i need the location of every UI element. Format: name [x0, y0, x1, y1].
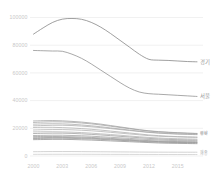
x-tick-label-2009: 2009	[107, 163, 133, 169]
y-tick-label-60000: 60000	[0, 70, 28, 76]
line-chart: 020000400006000080000100000 200020032006…	[0, 0, 221, 185]
y-tick-label-20000: 20000	[0, 125, 28, 131]
x-tick-label-2012: 2012	[136, 163, 162, 169]
y-tick-label-80000: 80000	[0, 42, 28, 48]
series-label-세종: 세종	[200, 152, 208, 156]
chart-plot-area	[0, 0, 221, 185]
x-tick-label-2000: 2000	[21, 163, 47, 169]
y-tick-label-0: 0	[0, 153, 28, 159]
series-line-경기	[34, 18, 198, 61]
series-lines	[34, 18, 198, 154]
x-tick-label-2003: 2003	[49, 163, 75, 169]
series-label-서울: 서울	[200, 93, 210, 99]
x-tick-label-2015: 2015	[165, 163, 191, 169]
y-tick-label-100000: 100000	[0, 14, 28, 20]
series-label-인천: 인천	[200, 132, 208, 136]
series-label-경기: 경기	[200, 59, 210, 65]
x-tick-label-2006: 2006	[78, 163, 104, 169]
y-tick-label-40000: 40000	[0, 97, 28, 103]
series-line-제주	[34, 152, 198, 153]
series-line-서울	[34, 50, 198, 96]
